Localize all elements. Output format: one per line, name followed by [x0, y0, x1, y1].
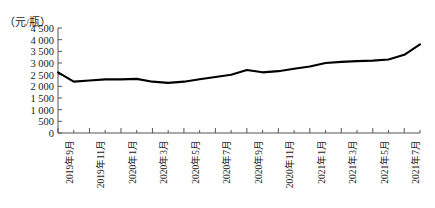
x-tick-label: 2019年9月 [62, 140, 76, 184]
x-tick-label: 2021年7月 [408, 140, 422, 184]
x-tick-label: 2020年9月 [251, 140, 265, 184]
x-axis-tick-labels: 2019年9月2019年11月2020年1月2020年3月2020年5月2020… [0, 0, 435, 208]
x-tick-label: 2020年7月 [219, 140, 233, 184]
x-tick-label: 2020年3月 [156, 140, 170, 184]
x-tick-label: 2020年11月 [282, 140, 296, 188]
x-tick-label: 2021年1月 [314, 140, 328, 184]
chart-container: （元/瓶） 05001 0001 5002 0002 5003 0003 500… [0, 0, 435, 208]
x-tick-label: 2020年5月 [188, 140, 202, 184]
x-tick-label: 2020年1月 [125, 140, 139, 184]
x-tick-label: 2021年3月 [345, 140, 359, 184]
x-tick-label: 2019年11月 [93, 140, 107, 188]
x-tick-label: 2021年5月 [377, 140, 391, 184]
